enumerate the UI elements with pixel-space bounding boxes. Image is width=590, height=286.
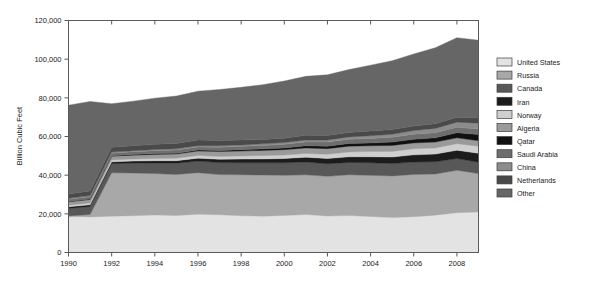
- legend-label-iran: Iran: [517, 98, 529, 107]
- y-tick-label: 80,000: [39, 94, 62, 103]
- legend-swatch-algeria: [497, 124, 512, 132]
- x-tick-label: 2004: [362, 259, 379, 268]
- chart-container: 020,00040,00060,00080,000100,000120,000 …: [0, 0, 590, 286]
- x-tick-label: 1990: [60, 259, 77, 268]
- y-axis-title: Billion Cubic Feet: [15, 106, 24, 165]
- legend-label-algeria: Algeria: [517, 124, 539, 133]
- y-tick-label: 120,000: [34, 16, 61, 25]
- legend-swatch-russia: [497, 71, 512, 79]
- y-tick-label: 100,000: [34, 55, 61, 64]
- x-tick-label: 1998: [233, 259, 250, 268]
- x-tick-label: 1994: [146, 259, 163, 268]
- legend-swatch-saudi-arabia: [497, 150, 512, 158]
- stacked-area-chart: 020,00040,00060,00080,000100,000120,000 …: [0, 0, 590, 286]
- legend-label-norway: Norway: [517, 111, 542, 120]
- legend-label-russia: Russia: [517, 71, 539, 80]
- y-tick-label: 40,000: [39, 171, 62, 180]
- x-tick-label: 1992: [103, 259, 120, 268]
- legend-label-saudi-arabia: Saudi Arabia: [517, 150, 558, 159]
- x-tick-label: 2002: [319, 259, 336, 268]
- x-tick-label: 2000: [276, 259, 293, 268]
- x-tick-label: 2008: [449, 259, 466, 268]
- y-tick-label: 60,000: [39, 132, 62, 141]
- legend-label-qatar: Qatar: [517, 137, 536, 146]
- y-tick-label: 0: [57, 248, 61, 257]
- legend-label-canada: Canada: [517, 84, 542, 93]
- y-tick-label: 20,000: [39, 210, 62, 219]
- legend-swatch-china: [497, 163, 512, 171]
- x-tick-label: 2006: [405, 259, 422, 268]
- legend-label-other: Other: [517, 189, 536, 198]
- legend-swatch-canada: [497, 84, 512, 92]
- x-tick-label: 1996: [190, 259, 207, 268]
- legend-swatch-iran: [497, 97, 512, 105]
- legend-swatch-norway: [497, 110, 512, 118]
- legend-label-china: China: [517, 163, 536, 172]
- area-series-united-states: [69, 212, 479, 253]
- legend-label-united-states: United States: [517, 58, 561, 67]
- area-series-russia: [69, 170, 479, 217]
- figure-caption: [6, 277, 566, 286]
- legend-swatch-qatar: [497, 137, 512, 145]
- legend-swatch-other: [497, 189, 512, 197]
- legend-label-netherlands: Netherlands: [517, 176, 556, 185]
- legend-swatch-netherlands: [497, 176, 512, 184]
- legend-swatch-united-states: [497, 58, 512, 66]
